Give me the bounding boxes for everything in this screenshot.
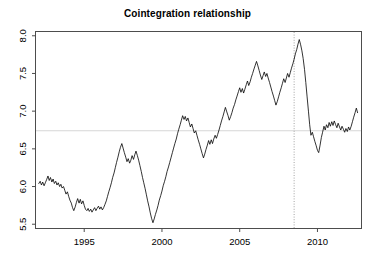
x-tick-label: 1995 xyxy=(74,236,95,247)
axis-group: 5.56.06.57.07.58.0 1995200020052010 xyxy=(17,29,362,247)
y-axis-tick-labels: 5.56.06.57.07.58.0 xyxy=(17,29,28,231)
x-tick-label: 2005 xyxy=(229,236,250,247)
plot-frame xyxy=(36,32,362,229)
plot-area: 5.56.06.57.07.58.0 1995200020052010 xyxy=(0,0,375,258)
y-tick-label: 7.5 xyxy=(17,67,28,80)
y-tick-label: 6.5 xyxy=(17,142,28,155)
y-tick-label: 6.0 xyxy=(17,180,28,193)
y-tick-label: 7.0 xyxy=(17,105,28,118)
x-tick-label: 2010 xyxy=(307,236,328,247)
reference-lines xyxy=(36,32,361,228)
chart-container: Cointegration relationship 5.56.06.57.07… xyxy=(0,0,375,258)
y-tick-label: 8.0 xyxy=(17,29,28,42)
x-axis-tick-labels: 1995200020052010 xyxy=(74,236,328,247)
y-tick-label: 5.5 xyxy=(17,218,28,231)
x-tick-label: 2000 xyxy=(151,236,172,247)
